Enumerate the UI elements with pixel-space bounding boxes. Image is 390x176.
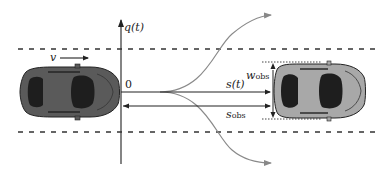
diagram-canvas — [0, 0, 390, 176]
s-obs-arrow — [123, 104, 270, 109]
obstacle-vehicle — [274, 61, 366, 121]
w-obs-label: wobs — [246, 70, 269, 81]
ego-vehicle — [20, 64, 120, 120]
velocity-label: v — [50, 52, 56, 63]
lane-change-diagram: q(t) 0 v s(t) sobs wobs — [0, 0, 390, 176]
lower-trajectory — [160, 92, 271, 163]
s-obs-label: sobs — [226, 109, 246, 120]
s-t-label: s(t) — [226, 79, 245, 90]
origin-label: 0 — [125, 79, 132, 90]
q-axis-label: q(t) — [124, 22, 144, 33]
w-obs-main: w — [246, 69, 255, 82]
s-obs-subscript: obs — [232, 111, 246, 120]
w-obs-subscript: obs — [255, 72, 269, 81]
